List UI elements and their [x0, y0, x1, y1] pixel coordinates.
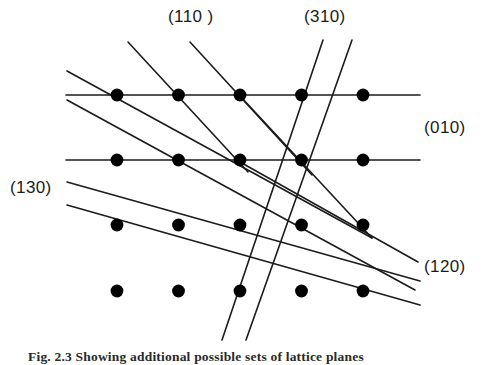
lattice-point — [357, 89, 370, 102]
lattice-point — [234, 285, 247, 298]
lattice-point — [234, 89, 247, 102]
lattice-point — [111, 285, 124, 298]
lattice-point — [111, 219, 124, 232]
lattice-point — [295, 89, 308, 102]
label-plane-310: (310) — [304, 8, 346, 25]
lattice-point — [234, 219, 247, 232]
lattice-point — [357, 154, 370, 167]
lattice-point — [172, 154, 185, 167]
label-plane-130: (130) — [10, 179, 52, 196]
lattice-point — [295, 154, 308, 167]
lattice-point — [111, 89, 124, 102]
label-plane-110: (110 ) — [168, 8, 214, 25]
lattice-point — [295, 285, 308, 298]
lattice-point — [111, 154, 124, 167]
label-plane-120: (120) — [424, 258, 466, 275]
lattice-point — [357, 285, 370, 298]
lattice-point — [172, 89, 185, 102]
figure-caption: Fig. 2.3 Showing additional possible set… — [28, 349, 480, 365]
lattice-point — [357, 219, 370, 232]
label-plane-010: (010) — [424, 119, 466, 136]
lattice-point — [172, 219, 185, 232]
lattice-point — [172, 285, 185, 298]
lattice-point — [295, 219, 308, 232]
lattice-point — [234, 154, 247, 167]
